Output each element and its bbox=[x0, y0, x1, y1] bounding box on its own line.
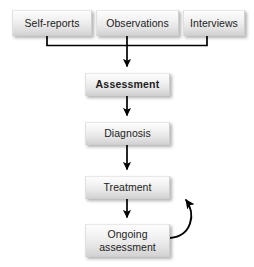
arrow-ongoing-to-treatment-feedback bbox=[170, 200, 191, 238]
node-assessment-label: Assessment bbox=[96, 78, 160, 91]
node-self-reports[interactable]: Self-reports bbox=[12, 10, 92, 36]
flowchart-diagram: Self-reports Observations Interviews Ass… bbox=[0, 0, 254, 267]
node-self-reports-label: Self-reports bbox=[25, 17, 80, 30]
node-observations[interactable]: Observations bbox=[96, 10, 179, 36]
node-ongoing-assessment-label: Ongoing assessment bbox=[99, 228, 156, 253]
node-diagnosis[interactable]: Diagnosis bbox=[85, 122, 170, 145]
node-treatment[interactable]: Treatment bbox=[85, 176, 170, 199]
node-interviews[interactable]: Interviews bbox=[183, 10, 245, 36]
node-ongoing-assessment[interactable]: Ongoing assessment bbox=[85, 224, 170, 257]
node-assessment[interactable]: Assessment bbox=[85, 73, 170, 96]
node-diagnosis-label: Diagnosis bbox=[104, 127, 151, 140]
node-observations-label: Observations bbox=[106, 17, 168, 30]
node-interviews-label: Interviews bbox=[190, 17, 238, 30]
bracket-merge-connector bbox=[47, 36, 207, 46]
node-treatment-label: Treatment bbox=[104, 181, 152, 194]
